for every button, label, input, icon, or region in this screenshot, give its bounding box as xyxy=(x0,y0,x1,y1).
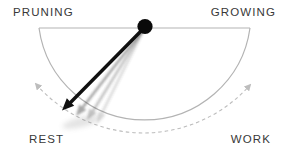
pendulum-arrow xyxy=(62,27,145,111)
trail-1 xyxy=(76,27,145,116)
motion-smudge xyxy=(61,112,102,131)
label-growing: GROWING xyxy=(211,5,276,19)
motion-blur-trails xyxy=(76,27,145,123)
trail-2 xyxy=(87,27,145,120)
label-pruning: PRUNING xyxy=(13,5,74,19)
pivot-dot-icon xyxy=(137,19,152,34)
label-rest: REST xyxy=(29,132,64,146)
trail-3 xyxy=(97,27,145,123)
label-work: WORK xyxy=(231,132,271,146)
pendulum-diagram: PRUNING GROWING REST WORK xyxy=(0,0,288,155)
pendulum-arm xyxy=(71,27,145,102)
